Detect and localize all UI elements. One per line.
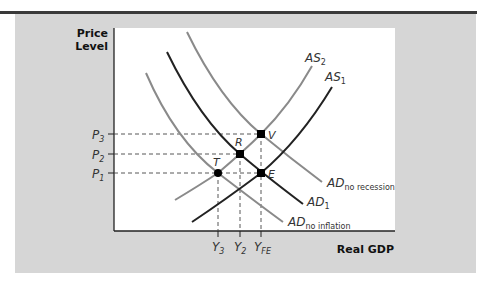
label-t: T <box>213 156 221 169</box>
curve-ad1 <box>167 52 303 204</box>
point-v <box>257 130 265 138</box>
svg-text:ADno inflation: ADno inflation <box>287 215 351 231</box>
label-as2: AS2 <box>304 51 326 67</box>
svg-text:AD1: AD1 <box>306 195 330 211</box>
label-r: R <box>235 136 243 149</box>
curve-ad-no-inflation <box>146 73 283 222</box>
svg-text:Y3: Y3 <box>212 240 224 256</box>
svg-text:P2: P2 <box>92 148 104 164</box>
label-p3: P3 <box>92 128 104 144</box>
label-ad-no-recession: ADno recession <box>326 176 395 192</box>
label-ad-no-inflation: ADno inflation <box>287 215 351 231</box>
label-y2: Y2 <box>234 240 246 256</box>
svg-text:Y2: Y2 <box>234 240 246 256</box>
label-p2: P2 <box>92 148 104 164</box>
label-ad1: AD1 <box>306 195 330 211</box>
point-t <box>214 169 222 177</box>
label-as1: AS1 <box>324 70 346 86</box>
curve-as2 <box>175 66 312 200</box>
svg-text:YFE: YFE <box>254 240 272 256</box>
label-yfe: YFE <box>254 240 272 256</box>
label-e: E <box>268 168 275 181</box>
label-y3: Y3 <box>212 240 224 256</box>
svg-text:ADno recession: ADno recession <box>326 176 395 192</box>
svg-text:AS1: AS1 <box>324 70 346 86</box>
svg-text:P3: P3 <box>92 128 104 144</box>
svg-text:AS2: AS2 <box>304 51 326 67</box>
svg-text:P1: P1 <box>92 167 104 183</box>
curve-ad-no-recession <box>187 32 322 182</box>
label-v: V <box>268 129 277 142</box>
point-r <box>236 150 244 158</box>
ad-as-diagram: V R T E P3 P2 P1 Y3 Y2 YFE AS2 AS1 ADno … <box>0 0 488 281</box>
point-e <box>257 169 265 177</box>
label-p1: P1 <box>92 167 104 183</box>
